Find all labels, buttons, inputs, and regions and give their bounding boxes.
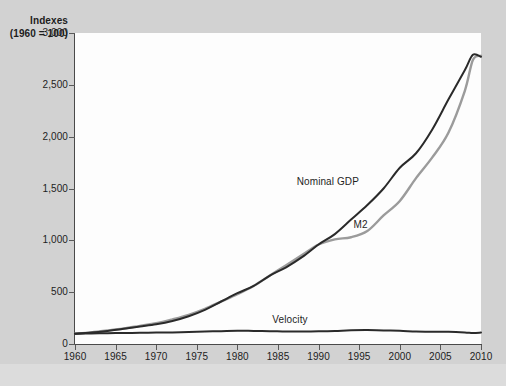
plot-area — [75, 33, 481, 344]
series-label-m2: M2 — [354, 219, 368, 230]
x-tick-label: 1970 — [136, 351, 176, 362]
series-label-nominal-gdp: Nominal GDP — [297, 176, 359, 187]
x-tick-mark — [400, 345, 401, 350]
x-tick-mark — [319, 345, 320, 350]
series-label-velocity: Velocity — [272, 314, 307, 325]
x-tick-label: 2005 — [420, 351, 460, 362]
x-tick-label: 1960 — [55, 351, 95, 362]
x-tick-mark — [116, 345, 117, 350]
y-tick-mark — [69, 85, 75, 86]
x-tick-label: 1980 — [217, 351, 257, 362]
y-tick-label: 1,500 — [8, 183, 68, 194]
x-tick-mark — [197, 345, 198, 350]
y-tick-mark — [69, 292, 75, 293]
page-bottom-margin — [0, 364, 506, 386]
x-tick-mark — [481, 345, 482, 350]
y-tick-label: 500 — [8, 286, 68, 297]
y-tick-label: 0 — [8, 338, 68, 349]
x-tick-label: 1995 — [339, 351, 379, 362]
y-tick-mark — [69, 137, 75, 138]
chart-figure: Indexes (1960 = 100) 05001,0001,5002,000… — [0, 0, 506, 386]
y-tick-mark — [69, 33, 75, 34]
x-tick-mark — [237, 345, 238, 350]
x-tick-mark — [75, 345, 76, 350]
x-tick-mark — [359, 345, 360, 350]
x-tick-label: 1985 — [258, 351, 298, 362]
x-tick-label: 2010 — [461, 351, 501, 362]
x-tick-label: 1990 — [299, 351, 339, 362]
y-tick-label: 1,000 — [8, 234, 68, 245]
y-tick-mark — [69, 189, 75, 190]
y-axis-title-line1: Indexes — [0, 14, 68, 27]
x-tick-label: 2000 — [380, 351, 420, 362]
x-tick-mark — [278, 345, 279, 350]
x-tick-label: 1975 — [177, 351, 217, 362]
x-tick-label: 1965 — [96, 351, 136, 362]
y-tick-label: 3,000 — [8, 27, 68, 38]
y-tick-label: 2,000 — [8, 131, 68, 142]
x-tick-mark — [156, 345, 157, 350]
y-tick-mark — [69, 240, 75, 241]
x-tick-mark — [440, 345, 441, 350]
y-tick-label: 2,500 — [8, 79, 68, 90]
